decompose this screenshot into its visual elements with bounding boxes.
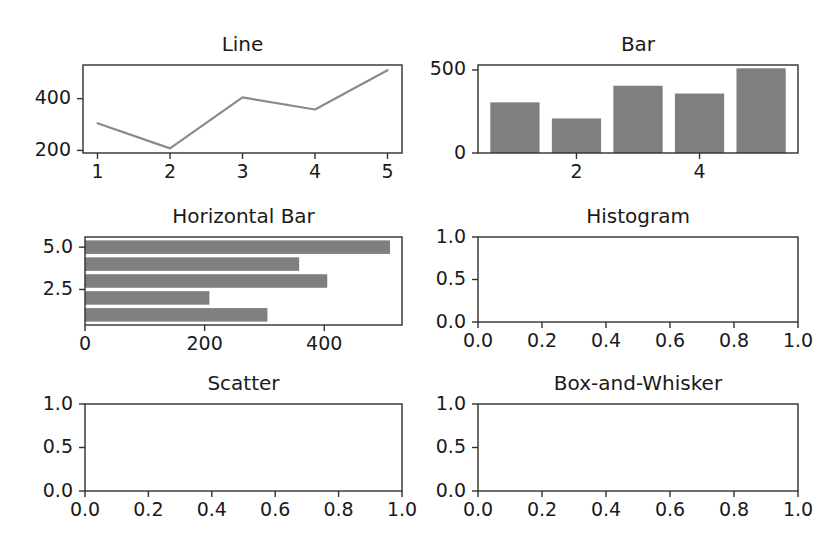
- bar-subplot-yticklabel: 0: [454, 141, 466, 163]
- histogram-subplot-xticklabel: 0.4: [591, 329, 621, 351]
- horizontal-bar-subplot-xticklabel: 0: [79, 332, 91, 354]
- line-subplot-xticklabel: 3: [236, 160, 248, 182]
- box-subplot-xticklabel: 1.0: [783, 498, 813, 520]
- box-subplot-yticklabel: 1.0: [436, 392, 466, 414]
- line-subplot-xticklabel: 2: [164, 160, 176, 182]
- hbar-3: [85, 274, 327, 288]
- line-subplot-title: Line: [222, 32, 264, 56]
- scatter-subplot-yticklabel: 0.5: [43, 435, 73, 457]
- scatter-subplot-title: Scatter: [207, 371, 280, 395]
- scatter-subplot-xticklabel: 0.4: [197, 498, 227, 520]
- line-subplot-line-series: [98, 70, 388, 148]
- bar-subplot-canvas: Bar240500: [400, 25, 826, 199]
- scatter-subplot-frame: [85, 404, 402, 491]
- scatter-subplot-xticklabel: 0.8: [323, 498, 353, 520]
- histogram-subplot-canvas: Histogram0.00.20.40.60.81.00.00.51.0: [400, 197, 826, 368]
- box-subplot-yticklabel: 0.5: [436, 435, 466, 457]
- line-subplot-xticklabel: 5: [381, 160, 393, 182]
- box-subplot-frame: [478, 404, 798, 491]
- hbar-5: [85, 240, 390, 254]
- hbar-1: [85, 308, 267, 322]
- hbar-2: [85, 291, 209, 305]
- line-subplot-yticklabel: 400: [35, 86, 71, 108]
- box-subplot: Box-and-Whisker0.00.20.40.60.81.00.00.51…: [400, 364, 826, 537]
- histogram-subplot: Histogram0.00.20.40.60.81.00.00.51.0: [400, 197, 826, 368]
- horizontal-bar-subplot-yticklabel: 5.0: [43, 235, 73, 257]
- horizontal-bar-subplot: Horizontal Bar02004002.55.0: [7, 197, 430, 371]
- histogram-subplot-xticklabel: 0.8: [719, 329, 749, 351]
- line-subplot-xticklabel: 1: [91, 160, 103, 182]
- horizontal-bar-subplot-yticklabel: 2.5: [43, 277, 73, 299]
- scatter-subplot: Scatter0.00.20.40.60.81.00.00.51.0: [7, 364, 430, 537]
- scatter-subplot-yticklabel: 0.0: [43, 479, 73, 501]
- line-subplot: Line12345200400: [5, 25, 430, 199]
- bar-subplot-yticklabel: 500: [430, 57, 466, 79]
- horizontal-bar-subplot-xticklabel: 200: [186, 332, 222, 354]
- box-subplot-xticklabel: 0.0: [463, 498, 493, 520]
- histogram-subplot-yticklabel: 0.5: [436, 267, 466, 289]
- bar-4: [675, 94, 724, 153]
- scatter-subplot-xticklabel: 0.0: [70, 498, 100, 520]
- line-subplot-yticklabel: 200: [35, 138, 71, 160]
- box-subplot-xticklabel: 0.4: [591, 498, 621, 520]
- box-subplot-xticklabel: 0.6: [655, 498, 685, 520]
- scatter-subplot-xticklabel: 0.2: [133, 498, 163, 520]
- histogram-subplot-xticklabel: 0.2: [527, 329, 557, 351]
- matplotlib-figure: Line12345200400Bar240500Horizontal Bar02…: [0, 0, 839, 557]
- bar-2: [552, 118, 601, 153]
- horizontal-bar-subplot-xticklabel: 400: [306, 332, 342, 354]
- box-subplot-title: Box-and-Whisker: [554, 371, 723, 395]
- bar-subplot: Bar240500: [400, 25, 826, 199]
- box-subplot-canvas: Box-and-Whisker0.00.20.40.60.81.00.00.51…: [400, 364, 826, 537]
- scatter-subplot-xticklabel: 0.6: [260, 498, 290, 520]
- bar-subplot-title: Bar: [621, 32, 656, 56]
- horizontal-bar-subplot-title: Horizontal Bar: [172, 204, 315, 228]
- horizontal-bar-subplot-canvas: Horizontal Bar02004002.55.0: [7, 197, 430, 371]
- bar-subplot-xticklabel: 4: [693, 160, 705, 182]
- histogram-subplot-yticklabel: 0.0: [436, 310, 466, 332]
- histogram-subplot-yticklabel: 1.0: [436, 225, 466, 247]
- bar-3: [613, 86, 662, 153]
- histogram-subplot-xticklabel: 0.6: [655, 329, 685, 351]
- histogram-subplot-title: Histogram: [586, 204, 690, 228]
- histogram-subplot-xticklabel: 1.0: [783, 329, 813, 351]
- hbar-4: [85, 257, 299, 271]
- scatter-subplot-yticklabel: 1.0: [43, 392, 73, 414]
- histogram-subplot-frame: [478, 237, 798, 322]
- bar-1: [490, 102, 539, 153]
- line-subplot-canvas: Line12345200400: [5, 25, 430, 199]
- bar-5: [736, 68, 785, 153]
- box-subplot-yticklabel: 0.0: [436, 479, 466, 501]
- bar-subplot-xticklabel: 2: [570, 160, 582, 182]
- line-subplot-xticklabel: 4: [309, 160, 321, 182]
- box-subplot-xticklabel: 0.2: [527, 498, 557, 520]
- box-subplot-xticklabel: 0.8: [719, 498, 749, 520]
- scatter-subplot-canvas: Scatter0.00.20.40.60.81.00.00.51.0: [7, 364, 430, 537]
- line-subplot-frame: [83, 65, 402, 153]
- histogram-subplot-xticklabel: 0.0: [463, 329, 493, 351]
